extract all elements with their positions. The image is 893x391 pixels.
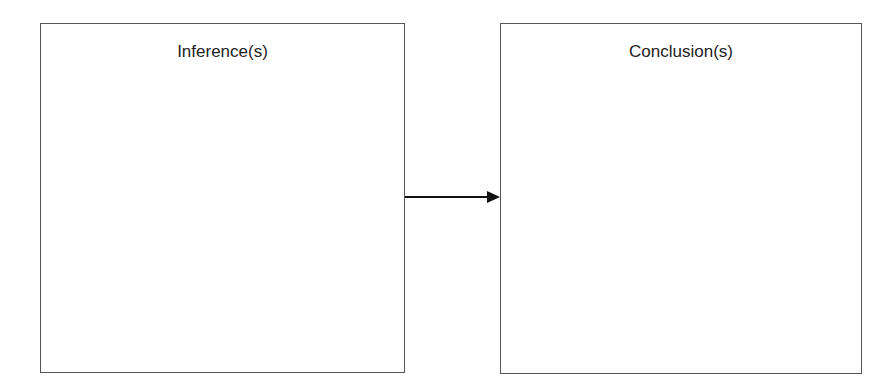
inference-title: Inference(s)	[41, 42, 404, 62]
conclusion-box: Conclusion(s)	[500, 23, 862, 374]
conclusion-title: Conclusion(s)	[501, 42, 861, 62]
arrow-right-icon	[405, 190, 500, 204]
inference-box: Inference(s)	[40, 23, 405, 373]
